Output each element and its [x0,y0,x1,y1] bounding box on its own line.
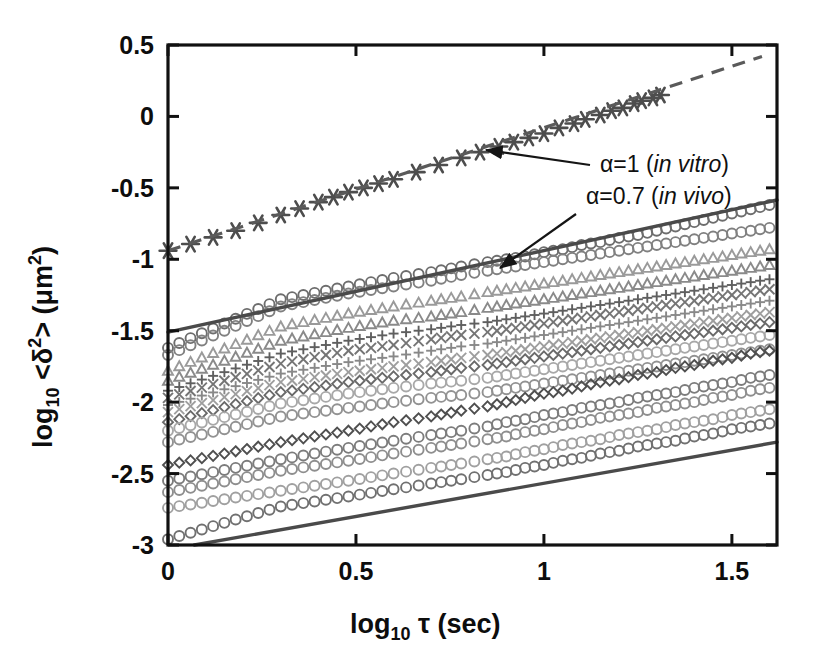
y-tick-label--2.5: -2.5 [111,460,154,488]
y-tick-label--1.5: -1.5 [111,317,154,345]
y-tick-label--3: -3 [132,531,154,559]
x-tick-label-1.5: 1.5 [715,557,750,585]
figure-container: 00.511.50.50-0.5-1-1.5-2-2.5-3 α=1 (in v… [0,0,826,667]
annotation-label-alpha-in-vitro: α=1 (in vitro) [600,151,729,177]
y-tick-label-0.5: 0.5 [119,31,154,59]
x-tick-label-1: 1 [537,557,551,585]
y-tick-label--1: -1 [132,245,154,273]
x-axis-title-text: log10 τ (sec) [350,609,501,644]
x-axis-title: log10 τ (sec) [350,609,501,644]
x-tick-label-0: 0 [161,557,175,585]
y-tick-label--2: -2 [132,388,154,416]
y-tick-label--0.5: -0.5 [111,174,154,202]
annotation-label-alpha-in-vivo: α=0.7 (in vivo) [586,183,732,209]
msd-loglog-plot: 00.511.50.50-0.5-1-1.5-2-2.5-3 α=1 (in v… [0,0,826,667]
x-tick-label-0.5: 0.5 [339,557,374,585]
y-tick-label-0: 0 [140,102,154,130]
